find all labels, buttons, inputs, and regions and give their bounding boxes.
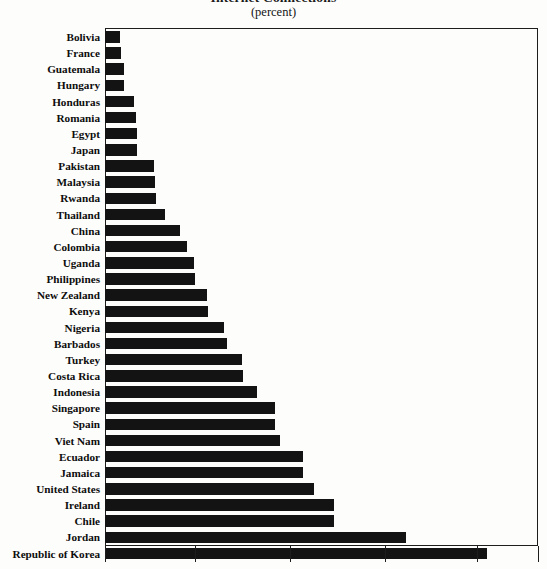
bar	[105, 402, 275, 413]
bar-track	[105, 239, 538, 255]
bar-track	[105, 174, 538, 190]
bar-track	[105, 465, 538, 481]
category-label: Kenya	[69, 305, 100, 317]
bar-track	[105, 529, 538, 545]
category-label: Barbados	[54, 338, 100, 350]
category-label: Ireland	[65, 499, 100, 511]
bar-track	[105, 29, 538, 45]
bar	[105, 322, 224, 333]
bar-row: Singapore	[0, 400, 547, 416]
bar-track	[105, 497, 538, 513]
category-label: Pakistan	[58, 160, 100, 172]
bar-track	[105, 416, 538, 432]
bar-row: Jordan	[0, 529, 547, 545]
category-label: Egypt	[71, 128, 100, 140]
bar-row: New Zealand	[0, 287, 547, 303]
category-label: France	[66, 47, 100, 59]
bar-track	[105, 61, 538, 77]
bar	[105, 47, 121, 58]
bar-track	[105, 481, 538, 497]
category-label: Singapore	[52, 402, 100, 414]
bar-row: Turkey	[0, 352, 547, 368]
bar	[105, 435, 280, 446]
bar	[105, 451, 303, 462]
category-label: Nigeria	[65, 322, 100, 334]
bar-track	[105, 207, 538, 223]
bar-row: Barbados	[0, 336, 547, 352]
bar-track	[105, 336, 538, 352]
bar-row: Romania	[0, 110, 547, 126]
bar	[105, 338, 227, 349]
bar	[105, 160, 154, 171]
category-label: Chile	[75, 515, 100, 527]
bar	[105, 31, 120, 42]
bar-row: China	[0, 223, 547, 239]
bar-track	[105, 45, 538, 61]
bar	[105, 128, 137, 139]
bar-track	[105, 223, 538, 239]
category-label: Spain	[73, 418, 100, 430]
bar-row: Egypt	[0, 126, 547, 142]
bar	[105, 96, 134, 107]
bar	[105, 532, 406, 543]
x-tick	[195, 546, 196, 562]
bar	[105, 419, 275, 430]
bar-row: Hungary	[0, 77, 547, 93]
bar	[105, 63, 124, 74]
bar-row: Honduras	[0, 94, 547, 110]
category-label: Uganda	[63, 257, 100, 269]
bar-row: Japan	[0, 142, 547, 158]
x-axis-ticks	[0, 546, 547, 566]
bar	[105, 241, 187, 252]
bar	[105, 193, 156, 204]
chart-page: Internet Connections (percent) BoliviaFr…	[0, 0, 547, 569]
x-tick	[290, 546, 291, 562]
bar-track	[105, 449, 538, 465]
bar	[105, 306, 208, 317]
bar-track	[105, 190, 538, 206]
bar-row: Malaysia	[0, 174, 547, 190]
bar-track	[105, 287, 538, 303]
bar-track	[105, 384, 538, 400]
bar	[105, 467, 303, 478]
bar-row: Jamaica	[0, 465, 547, 481]
bar-row: Chile	[0, 513, 547, 529]
x-tick	[105, 546, 106, 562]
bar	[105, 176, 155, 187]
bar-row: Pakistan	[0, 158, 547, 174]
category-label: New Zealand	[37, 289, 100, 301]
bar-row: Nigeria	[0, 320, 547, 336]
bar-track	[105, 142, 538, 158]
bar-track	[105, 303, 538, 319]
category-label: Romania	[56, 112, 100, 124]
category-label: Jordan	[66, 531, 100, 543]
bar-track	[105, 320, 538, 336]
bar-row: Viet Nam	[0, 433, 547, 449]
category-label: Hungary	[57, 79, 100, 91]
category-label: Philippines	[47, 273, 100, 285]
bar-track	[105, 513, 538, 529]
bar-row: Thailand	[0, 207, 547, 223]
bar-row: Spain	[0, 416, 547, 432]
category-label: United States	[36, 483, 100, 495]
bar	[105, 354, 242, 365]
category-label: Costa Rica	[48, 370, 100, 382]
x-tick-right-edge	[538, 546, 539, 562]
x-tick	[477, 546, 478, 562]
bar-row: Bolivia	[0, 29, 547, 45]
category-label: Colombia	[53, 241, 100, 253]
bar-track	[105, 368, 538, 384]
bar-row: Uganda	[0, 255, 547, 271]
bar	[105, 273, 195, 284]
category-label: Jamaica	[60, 467, 100, 479]
bar-track	[105, 433, 538, 449]
bar-row: Costa Rica	[0, 368, 547, 384]
bar	[105, 483, 314, 494]
bar-track	[105, 110, 538, 126]
category-label: Viet Nam	[55, 435, 100, 447]
bar	[105, 112, 136, 123]
category-label: Guatemala	[47, 63, 100, 75]
bar-track	[105, 126, 538, 142]
category-label: Thailand	[56, 209, 100, 221]
category-label: Rwanda	[60, 192, 100, 204]
